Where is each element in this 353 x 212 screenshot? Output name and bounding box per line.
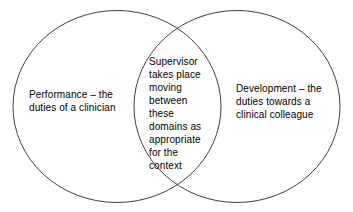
left-circle-label: Performance – the duties of a clinician	[29, 88, 133, 114]
right-circle-label: Development – the duties towards a clini…	[236, 82, 342, 121]
intersection-label: Supervisor takes place moving between th…	[149, 55, 211, 172]
venn-diagram: Performance – the duties of a clinician …	[0, 0, 353, 212]
